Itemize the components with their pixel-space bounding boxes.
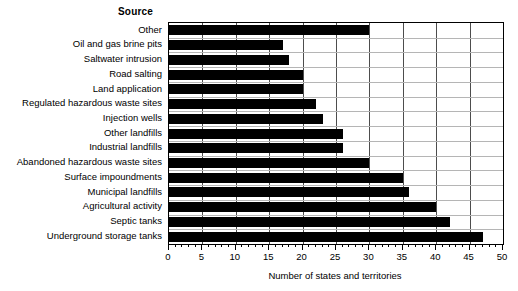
category-label: Saltwater intrusion bbox=[0, 51, 166, 66]
bar-slot bbox=[169, 82, 503, 97]
bar bbox=[169, 202, 436, 212]
major-tick bbox=[469, 244, 470, 250]
minor-tick bbox=[482, 244, 483, 247]
minor-tick bbox=[315, 244, 316, 247]
minor-tick bbox=[282, 244, 283, 247]
minor-tick bbox=[408, 244, 409, 247]
x-tick-label: 30 bbox=[363, 252, 374, 262]
minor-tick bbox=[241, 244, 242, 247]
minor-tick bbox=[308, 244, 309, 247]
bar-slot bbox=[169, 97, 503, 112]
minor-tick bbox=[262, 244, 263, 247]
category-label: Other landfills bbox=[0, 125, 166, 140]
minor-tick bbox=[489, 244, 490, 247]
bar bbox=[169, 129, 343, 139]
bar-slot bbox=[169, 23, 503, 38]
bar-slot bbox=[169, 38, 503, 53]
x-tick-label: 10 bbox=[230, 252, 241, 262]
minor-tick bbox=[181, 244, 182, 247]
minor-tick bbox=[395, 244, 396, 247]
minor-tick bbox=[328, 244, 329, 247]
category-label: Regulated hazardous waste sites bbox=[0, 96, 166, 111]
major-tick bbox=[235, 244, 236, 250]
x-tick-label: 5 bbox=[199, 252, 204, 262]
minor-tick bbox=[382, 244, 383, 247]
minor-tick bbox=[429, 244, 430, 247]
minor-tick bbox=[195, 244, 196, 247]
bar bbox=[169, 84, 303, 94]
minor-tick bbox=[288, 244, 289, 247]
minor-tick bbox=[442, 244, 443, 247]
bar-slot bbox=[169, 67, 503, 82]
bar-slot bbox=[169, 111, 503, 126]
minor-tick bbox=[175, 244, 176, 247]
bar-slot bbox=[169, 229, 503, 244]
x-tick-label: 45 bbox=[463, 252, 474, 262]
category-label: Land application bbox=[0, 81, 166, 96]
minor-tick bbox=[188, 244, 189, 247]
minor-tick bbox=[495, 244, 496, 247]
bar-slot bbox=[169, 52, 503, 67]
major-tick bbox=[268, 244, 269, 250]
x-tick-label: 35 bbox=[397, 252, 408, 262]
minor-tick bbox=[462, 244, 463, 247]
major-tick bbox=[201, 244, 202, 250]
minor-tick bbox=[215, 244, 216, 247]
x-tick-label: 50 bbox=[497, 252, 508, 262]
bar-slot bbox=[169, 185, 503, 200]
minor-tick bbox=[221, 244, 222, 247]
category-label: Oil and gas brine pits bbox=[0, 37, 166, 52]
bar bbox=[169, 173, 403, 183]
category-label: Surface impoundments bbox=[0, 169, 166, 184]
minor-tick bbox=[449, 244, 450, 247]
bar-slot bbox=[169, 156, 503, 171]
x-tick-label: 25 bbox=[330, 252, 341, 262]
minor-tick bbox=[475, 244, 476, 247]
minor-tick bbox=[255, 244, 256, 247]
category-label: Injection wells bbox=[0, 110, 166, 125]
bar-slot bbox=[169, 200, 503, 215]
value-axis-title: Number of states and territories bbox=[168, 270, 502, 281]
minor-tick bbox=[375, 244, 376, 247]
category-label: Underground storage tanks bbox=[0, 228, 166, 243]
category-label: Abandoned hazardous waste sites bbox=[0, 155, 166, 170]
bar bbox=[169, 187, 409, 197]
plot-area bbox=[168, 22, 504, 245]
minor-tick bbox=[248, 244, 249, 247]
category-label: Agricultural activity bbox=[0, 199, 166, 214]
bar-series bbox=[169, 23, 503, 244]
x-tick-labels: 05101520253035404550 bbox=[0, 252, 518, 266]
minor-tick bbox=[415, 244, 416, 247]
bar-chart: Source OtherOil and gas brine pitsSaltwa… bbox=[0, 0, 518, 291]
bar bbox=[169, 55, 289, 65]
minor-tick bbox=[342, 244, 343, 247]
x-tick-label: 0 bbox=[165, 252, 170, 262]
category-label-column: OtherOil and gas brine pitsSaltwater int… bbox=[0, 22, 166, 243]
bar bbox=[169, 25, 369, 35]
bar bbox=[169, 99, 316, 109]
x-tick-label: 40 bbox=[430, 252, 441, 262]
minor-tick bbox=[455, 244, 456, 247]
minor-tick bbox=[228, 244, 229, 247]
category-label: Industrial landfills bbox=[0, 140, 166, 155]
bar-slot bbox=[169, 170, 503, 185]
x-tick-label: 15 bbox=[263, 252, 274, 262]
minor-tick bbox=[422, 244, 423, 247]
major-tick bbox=[168, 244, 169, 250]
minor-tick bbox=[208, 244, 209, 247]
minor-tick bbox=[295, 244, 296, 247]
minor-tick bbox=[348, 244, 349, 247]
bar bbox=[169, 232, 483, 242]
minor-tick bbox=[388, 244, 389, 247]
category-axis-title: Source bbox=[118, 6, 153, 17]
bar bbox=[169, 114, 323, 124]
bar-slot bbox=[169, 215, 503, 230]
bar bbox=[169, 143, 343, 153]
minor-tick bbox=[362, 244, 363, 247]
bar-slot bbox=[169, 141, 503, 156]
major-tick bbox=[435, 244, 436, 250]
major-tick bbox=[302, 244, 303, 250]
major-tick bbox=[402, 244, 403, 250]
category-label: Municipal landfills bbox=[0, 184, 166, 199]
bar-slot bbox=[169, 126, 503, 141]
